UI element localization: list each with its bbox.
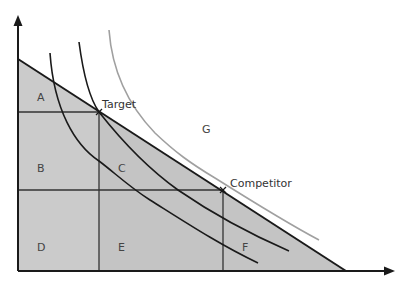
region-label-a: A bbox=[37, 91, 45, 104]
x-axis-arrow-icon bbox=[384, 267, 395, 276]
region-label-c: C bbox=[118, 162, 126, 175]
region-label-d: D bbox=[37, 241, 45, 254]
shade-region-left bbox=[18, 59, 99, 271]
region-label-e: E bbox=[118, 241, 125, 254]
indifference-curve-diagram: Target Competitor A B C D E F G bbox=[0, 0, 416, 287]
region-label-b: B bbox=[37, 162, 45, 175]
target-label: Target bbox=[101, 98, 137, 111]
region-label-f: F bbox=[242, 241, 248, 254]
region-label-g: G bbox=[202, 123, 211, 136]
competitor-label: Competitor bbox=[230, 177, 292, 190]
y-axis-arrow-icon bbox=[14, 15, 23, 26]
